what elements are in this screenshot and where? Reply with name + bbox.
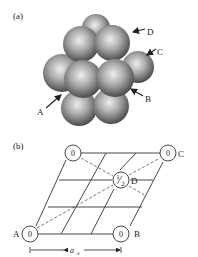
sphere xyxy=(96,59,134,97)
atom-b: 0 B xyxy=(113,226,140,242)
lattice-grid xyxy=(36,153,163,234)
sphere xyxy=(63,26,99,62)
arrow-c xyxy=(147,49,156,55)
svg-text:0: 0 xyxy=(28,230,32,239)
arrow-label-b: B xyxy=(145,94,151,104)
atom-a: 0 A xyxy=(13,226,38,242)
sphere xyxy=(94,25,130,61)
atom-c: 0 C xyxy=(160,145,184,161)
atom-d: 1 2 D xyxy=(113,172,138,188)
arrow-b xyxy=(131,89,143,96)
dimension-subscript: 0 xyxy=(77,251,80,256)
svg-text:0: 0 xyxy=(71,149,75,158)
arrow-label-d: D xyxy=(147,27,154,37)
diagonal-dashes xyxy=(37,158,160,228)
svg-text:0: 0 xyxy=(166,149,170,158)
atom-label-b: B xyxy=(134,229,140,239)
figure: (a) A B C D (b) xyxy=(0,0,198,257)
panel-b-label: (b) xyxy=(13,141,24,151)
atom-label-c: C xyxy=(178,149,184,159)
atom-label-d: D xyxy=(131,176,138,186)
arrow-a xyxy=(46,95,61,108)
svg-text:2: 2 xyxy=(121,180,125,188)
panel-a-label: (a) xyxy=(13,11,23,21)
lattice-dimension: a 0 xyxy=(30,246,121,256)
arrow-label-a: A xyxy=(37,107,44,117)
svg-text:0: 0 xyxy=(119,230,123,239)
atom-label-a: A xyxy=(13,229,20,239)
dimension-label: a xyxy=(70,246,74,255)
arrow-label-c: C xyxy=(157,47,163,57)
atom-top-left: 0 xyxy=(65,145,81,161)
arrow-d xyxy=(133,29,145,32)
